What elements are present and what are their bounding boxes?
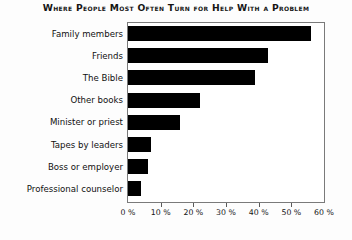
x-tick	[226, 203, 227, 207]
bars-group	[128, 23, 324, 202]
category-label: Boss or employer	[0, 162, 123, 172]
category-label: Friends	[0, 51, 123, 61]
bar-friends	[128, 48, 268, 63]
x-tick	[259, 203, 260, 207]
category-label: Tapes by leaders	[0, 140, 123, 150]
x-tick	[193, 203, 194, 207]
category-label: Family members	[0, 29, 123, 39]
bar-family-members	[128, 26, 311, 41]
x-tick-label: 30 %	[216, 208, 236, 217]
page-title: Where People Most Often Turn for Help Wi…	[0, 2, 352, 13]
x-tick	[291, 203, 292, 207]
x-tick	[161, 203, 162, 207]
bar-tapes-by-leaders	[128, 137, 151, 152]
x-tick-label: 20 %	[183, 208, 203, 217]
bar-other-books	[128, 93, 200, 108]
bar-the-bible	[128, 70, 255, 85]
x-axis-tick-labels: 0 %10 %20 %30 %40 %50 %60 %	[0, 208, 352, 222]
bar-professional-counselor	[128, 181, 141, 196]
category-label: Minister or priest	[0, 117, 123, 127]
x-tick-label: 60 %	[314, 208, 334, 217]
bar-chart: Where People Most Often Turn for Help Wi…	[0, 0, 352, 240]
bar-minister-or-priest	[128, 115, 180, 130]
category-axis: Family membersFriendsThe BibleOther book…	[0, 22, 123, 203]
x-tick-label: 40 %	[249, 208, 269, 217]
category-label: Other books	[0, 95, 123, 105]
category-label: The Bible	[0, 73, 123, 83]
bar-boss-or-employer	[128, 159, 148, 174]
category-label: Professional counselor	[0, 184, 123, 194]
x-tick-label: 10 %	[151, 208, 171, 217]
x-tick-label: 50 %	[281, 208, 301, 217]
x-tick-label: 0 %	[121, 208, 136, 217]
